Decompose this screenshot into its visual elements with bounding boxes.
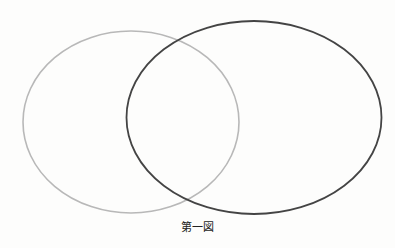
figure-caption: 第一図 <box>0 218 395 234</box>
venn-diagram <box>0 0 395 248</box>
left-ellipse <box>23 31 239 213</box>
right-ellipse <box>127 21 382 214</box>
